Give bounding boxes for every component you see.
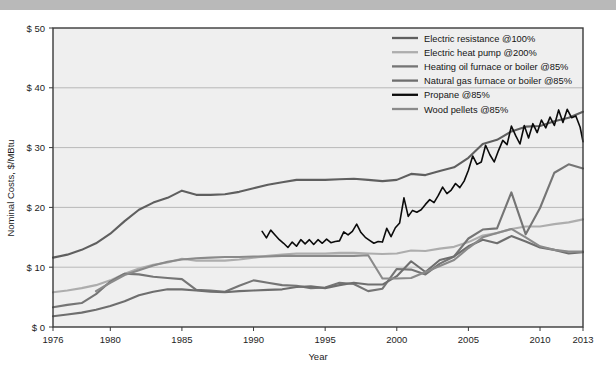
y-tick-label: $ 30: [27, 142, 46, 153]
legend-label: Electric heat pump @200%: [424, 48, 537, 58]
y-tick-label: $ 20: [27, 202, 46, 213]
y-tick-label: $ 50: [27, 23, 46, 34]
y-axis-label: Nominal Costs, $/MBtu: [5, 139, 16, 236]
line-chart: $ 0$ 10$ 20$ 30$ 40$ 50 1976198019851990…: [0, 10, 616, 366]
x-tick-label: 1990: [243, 334, 264, 345]
chart-figure: $ 0$ 10$ 20$ 30$ 40$ 50 1976198019851990…: [0, 10, 616, 366]
y-tick-label: $ 40: [27, 82, 46, 93]
x-tick-label: 2010: [529, 334, 550, 345]
legend-label: Natural gas furnace or boiler @85%: [424, 76, 572, 86]
y-tick-label: $ 10: [27, 262, 46, 273]
x-tick-label: 1980: [100, 334, 121, 345]
plot-background: [53, 28, 583, 327]
legend-label: Propane @85%: [424, 90, 490, 100]
y-axis-ticks: $ 0$ 10$ 20$ 30$ 40$ 50: [27, 23, 54, 333]
legend-label: Heating oil furnace or boiler @85%: [424, 62, 568, 72]
x-axis-label: Year: [308, 351, 327, 362]
x-tick-label: 1995: [315, 334, 336, 345]
x-tick-label: 1985: [171, 334, 192, 345]
x-tick-label: 2005: [458, 334, 479, 345]
chart-screenshot: $ 0$ 10$ 20$ 30$ 40$ 50 1976198019851990…: [0, 0, 616, 366]
top-gray-band: [0, 0, 616, 10]
x-tick-label: 2000: [386, 334, 407, 345]
x-axis-ticks: 197619801985199019952000200520102013: [42, 327, 593, 345]
x-tick-label: 2013: [572, 334, 593, 345]
legend-label: Wood pellets @85%: [424, 105, 508, 115]
y-tick-label: $ 0: [32, 322, 45, 333]
x-tick-label: 1976: [42, 334, 63, 345]
legend-label: Electric resistance @100%: [424, 34, 535, 44]
